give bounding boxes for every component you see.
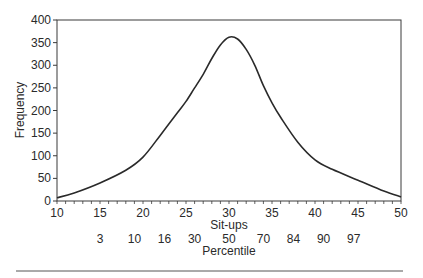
percentile-label: 97: [347, 232, 361, 246]
y-tick-label: 250: [31, 81, 51, 95]
chart: 050100150200250300350400 101520253035404…: [0, 0, 423, 278]
y-tick-label: 150: [31, 126, 51, 140]
y-tick-label: 100: [31, 149, 51, 163]
x-tick-label: 15: [93, 206, 107, 220]
distribution-curve: [57, 37, 401, 198]
x-axis-title: Sit-ups: [210, 218, 247, 232]
x-tick-label: 25: [179, 206, 193, 220]
x-tick-label: 20: [136, 206, 150, 220]
y-tick-label: 300: [31, 58, 51, 72]
percentile-axis-title: Percentile: [202, 244, 256, 258]
y-tick-label: 50: [38, 171, 52, 185]
x-tick-label: 50: [394, 206, 408, 220]
x-tick-label: 45: [351, 206, 365, 220]
y-tick-label: 400: [31, 13, 51, 27]
y-tick-label: 200: [31, 104, 51, 118]
percentile-label: 3: [97, 232, 104, 246]
x-tick-label: 10: [50, 206, 64, 220]
y-axis-title: Frequency: [13, 82, 27, 139]
percentile-label: 70: [257, 232, 271, 246]
percentile-label: 10: [128, 232, 142, 246]
y-axis-ticks: 050100150200250300350400: [31, 13, 57, 208]
x-tick-label: 35: [265, 206, 279, 220]
percentile-label: 84: [287, 232, 301, 246]
plot-frame: [57, 20, 401, 201]
x-tick-label: 40: [308, 206, 322, 220]
y-tick-label: 350: [31, 36, 51, 50]
percentile-label: 90: [317, 232, 331, 246]
percentile-label: 16: [158, 232, 172, 246]
percentile-label: 30: [188, 232, 202, 246]
